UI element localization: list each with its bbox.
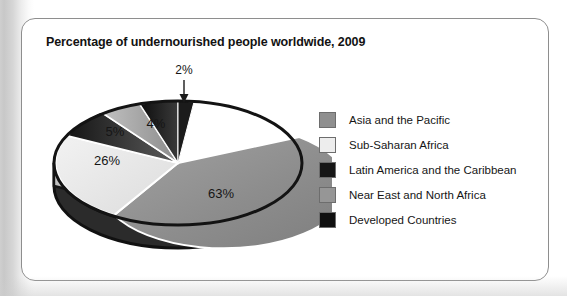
legend-label-developed-countries: Developed Countries (349, 214, 456, 226)
legend-item-sub-saharan-africa[interactable]: Sub-Saharan Africa (319, 132, 541, 157)
pie-chart: 63% 26% 5% 4% 2% (32, 57, 332, 272)
pie-label-near-east: 4% (147, 116, 166, 131)
chart-legend: Asia and the Pacific Sub-Saharan Africa … (319, 107, 541, 232)
legend-label-asia: Asia and the Pacific (349, 114, 450, 126)
pie-label-sub-saharan: 26% (94, 153, 120, 168)
legend-swatch-icon-sub-saharan (319, 137, 336, 153)
legend-swatch-icon-latin-america (319, 162, 336, 178)
pie-label-latin-america: 5% (106, 124, 125, 139)
figure-panel: Percentage of undernourished people worl… (21, 18, 549, 281)
legend-label-latin-america: Latin America and the Caribbean (349, 164, 517, 176)
pie-slice-developed-countries-sliver (178, 101, 194, 163)
page-title: Percentage of undernourished people worl… (46, 35, 365, 49)
legend-item-asia-and-the-pacific[interactable]: Asia and the Pacific (319, 107, 541, 132)
legend-item-latin-america-and-the-caribbean[interactable]: Latin America and the Caribbean (319, 157, 541, 182)
pie-callout-developed-countries: 2% (175, 63, 193, 103)
pie-label-developed: 2% (175, 63, 193, 77)
legend-swatch-icon-near-east (319, 187, 336, 203)
legend-item-developed-countries[interactable]: Developed Countries (319, 207, 541, 232)
legend-label-near-east: Near East and North Africa (349, 189, 486, 201)
legend-item-near-east-and-north-africa[interactable]: Near East and North Africa (319, 182, 541, 207)
pie-chart-svg: 63% 26% 5% 4% 2% (32, 57, 332, 272)
pie-label-asia: 63% (208, 186, 234, 201)
legend-swatch-icon-developed-countries (319, 212, 336, 228)
legend-swatch-icon-asia (319, 112, 336, 128)
legend-label-sub-saharan: Sub-Saharan Africa (349, 139, 449, 151)
